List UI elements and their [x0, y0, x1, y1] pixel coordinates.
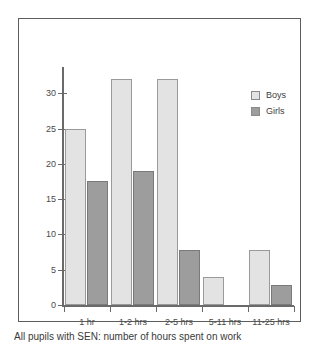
legend-label-girls: Girls [266, 107, 285, 116]
chart-legend: Boys Girls [251, 91, 286, 123]
y-tick-label: 5 [51, 265, 56, 274]
x-tick-mark-origin [64, 306, 65, 312]
bar-boys-0 [65, 129, 86, 305]
x-tick-label: 1-2 hrs [119, 318, 147, 327]
x-axis-line [62, 305, 294, 307]
bar-group [202, 65, 248, 305]
bar-girls-1 [133, 171, 154, 305]
bar-boys-4 [249, 250, 270, 305]
x-tick-label: 11-25 hrs [252, 318, 289, 327]
bar-group [156, 65, 202, 305]
bar-girls-2 [179, 250, 200, 305]
y-tick-label: 25 [46, 124, 56, 133]
bar-boys-3 [203, 277, 224, 305]
legend-item-girls: Girls [251, 107, 286, 116]
y-tick-label: 20 [46, 159, 56, 168]
bar-group [64, 65, 110, 305]
y-tick-label: 10 [46, 230, 56, 239]
legend-item-boys: Boys [251, 91, 286, 100]
x-tick-label: 5-11 hrs [209, 318, 241, 327]
y-tick-label: 15 [46, 195, 56, 204]
legend-label-boys: Boys [266, 91, 286, 100]
y-tick-label: 30 [46, 89, 56, 98]
x-tick-mark [248, 306, 249, 312]
x-tick-mark [202, 306, 203, 312]
x-tick-mark [294, 306, 295, 312]
chart-frame: 051015202530 1 hr1-2 hrs2-5 hrs5-11 hrs1… [18, 18, 301, 322]
x-tick-mark [156, 306, 157, 312]
bar-group [110, 65, 156, 305]
x-tick-label: 1 hr [79, 318, 95, 327]
bar-boys-2 [157, 79, 178, 305]
y-tick-label: 0 [51, 301, 56, 310]
legend-swatch-boys [251, 91, 260, 100]
legend-swatch-girls [251, 107, 260, 116]
bar-girls-4 [271, 285, 292, 305]
x-tick-mark [110, 306, 111, 312]
x-tick-label: 2-5 hrs [165, 318, 193, 327]
bar-girls-0 [87, 181, 108, 305]
bar-boys-1 [111, 79, 132, 305]
figure-caption: All pupils with SEN: number of hours spe… [14, 331, 314, 342]
y-tick-mark [58, 305, 67, 306]
